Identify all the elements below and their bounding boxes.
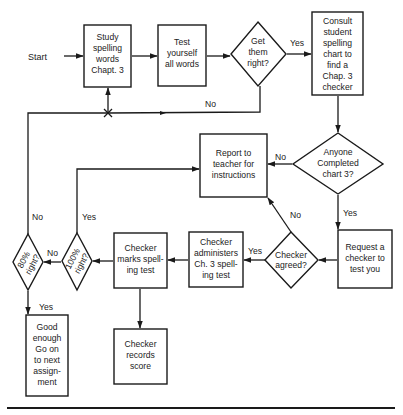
node-checker-marks: Checker marks spell- ing test [114, 233, 167, 288]
svg-text:Consult: Consult [323, 16, 353, 26]
svg-text:marks spell-: marks spell- [117, 254, 163, 264]
svg-text:Chap. 3: Chap. 3 [322, 71, 352, 81]
svg-text:ing test: ing test [127, 265, 155, 275]
svg-text:them: them [248, 47, 267, 57]
svg-text:find a: find a [327, 60, 348, 70]
svg-text:to next: to next [34, 355, 60, 365]
edge-getright-no [108, 86, 260, 113]
svg-text:instructions: instructions [212, 170, 255, 180]
svg-text:teacher for: teacher for [213, 159, 254, 169]
node-study: Study spelling words Chapt. 3 [84, 25, 131, 87]
svg-text:chart to: chart to [323, 49, 352, 59]
svg-text:Ch. 3 spell-: Ch. 3 spell- [194, 259, 238, 269]
edge-label-eighty-yes: Yes [39, 302, 53, 312]
edge-label-agreed-yes: Yes [248, 246, 262, 256]
node-get-them-right: Get them right? [231, 22, 286, 86]
svg-text:Request a: Request a [345, 242, 384, 252]
edge-label-getright-yes: Yes [290, 38, 304, 48]
node-checker-records: Checker records score [114, 329, 167, 384]
node-consult-chart: Consult student spelling chart to find a… [312, 12, 363, 95]
edge-label-eighty-no: No [32, 212, 43, 222]
svg-text:checker: checker [322, 82, 352, 92]
svg-text:yourself: yourself [167, 48, 198, 58]
edge-label-getright-no: No [205, 99, 216, 109]
svg-text:all words: all words [165, 59, 199, 69]
svg-text:Get: Get [251, 36, 265, 46]
svg-text:Checker: Checker [200, 237, 232, 247]
start-label: Start [28, 52, 48, 62]
svg-text:Study: Study [97, 32, 120, 42]
node-good-enough: Good enough Go on to next assign- ment [26, 315, 68, 396]
svg-text:Checker: Checker [125, 243, 157, 253]
svg-text:Chapt. 3: Chapt. 3 [91, 65, 124, 75]
svg-text:Checker: Checker [125, 339, 157, 349]
svg-text:records: records [126, 350, 155, 360]
svg-text:student: student [323, 27, 352, 37]
node-hundred-right: 100% right? [62, 233, 92, 290]
svg-text:Report to: Report to [216, 148, 252, 158]
edge-label-agreed-no: No [290, 210, 301, 220]
svg-text:assign-: assign- [33, 366, 61, 376]
arrowhead-getright-no [160, 111, 166, 115]
node-eighty-right: 80% right? [13, 234, 43, 290]
flowchart-canvas: Start Yes No No Yes Yes No Yes No No Yes… [0, 0, 403, 415]
svg-text:enough: enough [33, 333, 62, 343]
svg-text:spelling: spelling [323, 38, 352, 48]
svg-text:checker to: checker to [345, 253, 385, 263]
node-anyone-completed: Anyone Completed chart 3? [293, 133, 383, 194]
svg-text:ing test: ing test [202, 270, 230, 280]
svg-text:Test: Test [174, 37, 190, 47]
node-report-teacher: Report to teacher for instructions [200, 134, 267, 197]
node-request-checker: Request a checker to test you [338, 230, 392, 288]
edge-agreed-report [268, 198, 291, 232]
edge-label-hundred-yes: Yes [82, 212, 96, 222]
svg-text:chart 3?: chart 3? [322, 169, 353, 179]
svg-text:agreed?: agreed? [275, 260, 307, 270]
svg-text:Completed: Completed [317, 158, 359, 168]
edge-label-anyone-yes: Yes [343, 208, 357, 218]
svg-text:administers: administers [194, 248, 238, 258]
svg-text:Go on: Go on [35, 344, 59, 354]
node-checker-administers: Checker administers Ch. 3 spell- ing tes… [189, 232, 243, 287]
svg-text:test you: test you [350, 264, 380, 274]
node-checker-agreed: Checker agreed? [265, 232, 318, 288]
svg-text:score: score [130, 361, 151, 371]
svg-text:right?: right? [247, 58, 269, 68]
svg-text:spelling: spelling [93, 43, 122, 53]
edge-label-anyone-no: No [275, 152, 286, 162]
svg-text:ment: ment [37, 377, 57, 387]
edge-label-hundred-no: No [47, 248, 58, 258]
svg-text:Checker: Checker [275, 250, 307, 260]
node-test-yourself: Test yourself all words [158, 25, 206, 86]
svg-text:Good: Good [36, 322, 57, 332]
svg-text:words: words [95, 54, 119, 64]
edge-hundred-report [77, 169, 199, 233]
svg-text:Anyone: Anyone [323, 147, 352, 157]
